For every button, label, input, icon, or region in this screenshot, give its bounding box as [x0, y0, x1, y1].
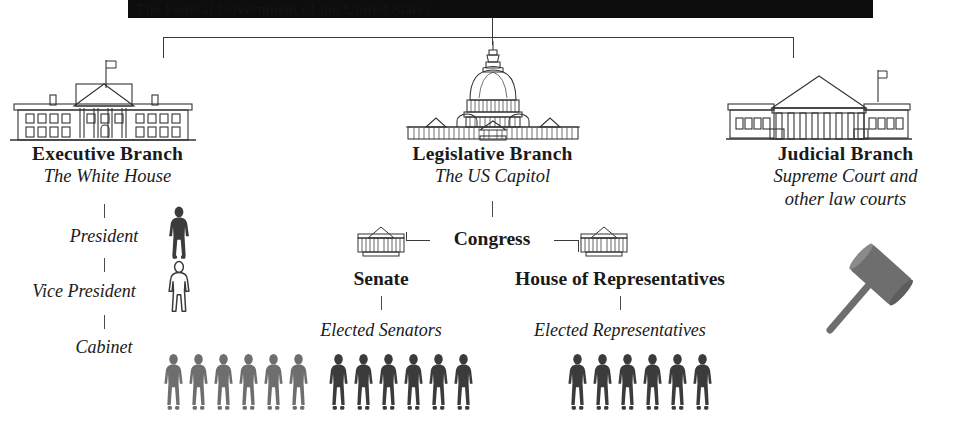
legislative-branch-subtitle: The US Capitol — [385, 165, 600, 188]
members-label-senators: Elected Senators — [301, 320, 461, 340]
person-figure — [327, 352, 350, 416]
us-capitol-icon — [404, 40, 582, 140]
redacted-title-text: The Federal Government of the United Sta… — [128, 0, 873, 18]
person-figure — [237, 352, 260, 416]
person-figure — [162, 352, 185, 416]
role-label-president: President — [24, 226, 184, 246]
house-building-icon — [578, 224, 630, 258]
person-figure — [616, 352, 639, 416]
connector-horizontal-bus — [163, 37, 794, 38]
judicial-branch-subtitle-line2: other law courts — [748, 188, 943, 211]
person-figure — [691, 352, 714, 416]
person-figure — [591, 352, 614, 416]
tick-house-to-members — [620, 296, 621, 310]
connector-drop-judicial — [793, 37, 794, 58]
connector-congress-to-senate — [406, 240, 430, 241]
tick-senate-to-members — [381, 296, 382, 310]
tick-vice-president-to-cabinet — [104, 315, 105, 329]
white-house-icon — [8, 58, 198, 142]
person-figure — [287, 352, 310, 416]
senate-building-icon — [355, 224, 407, 258]
role-label-vice-president: Vice President — [4, 281, 164, 301]
figure-group-cabinet — [162, 352, 310, 416]
person-figure — [187, 352, 210, 416]
person-figure — [166, 206, 192, 260]
judicial-branch-title: Judicial Branch — [748, 143, 943, 165]
node-label-congress: Congress — [432, 228, 552, 250]
person-figure — [377, 352, 400, 416]
person-figure — [452, 352, 475, 416]
connector-congress-to-house — [554, 240, 578, 241]
connector-drop-executive — [163, 37, 164, 58]
person-figure — [641, 352, 664, 416]
executive-branch-subtitle: The White House — [0, 165, 215, 188]
executive-branch-title: Executive Branch — [0, 143, 215, 165]
person-figure — [402, 352, 425, 416]
organization-chart: The Federal Government of the United Sta… — [0, 0, 953, 434]
figure-group-senators — [327, 352, 475, 416]
role-label-cabinet: Cabinet — [24, 337, 184, 357]
tick-executive-to-president — [104, 204, 105, 218]
person-figure — [352, 352, 375, 416]
members-label-representatives: Elected Representatives — [515, 320, 725, 340]
person-figure — [427, 352, 450, 416]
redacted-title-bar: The Federal Government of the United Sta… — [128, 0, 873, 18]
chamber-label-house: House of Representatives — [490, 268, 750, 290]
figure-group-vice-president — [166, 261, 192, 315]
person-figure-outline — [166, 261, 192, 315]
person-figure — [262, 352, 285, 416]
connector-root-stem — [492, 18, 493, 38]
legislative-branch-title: Legislative Branch — [385, 143, 600, 165]
person-figure — [666, 352, 689, 416]
tick-legislative-to-congress — [492, 201, 493, 217]
supreme-court-icon — [726, 56, 912, 142]
tick-president-to-vice-president — [104, 258, 105, 272]
person-figure — [566, 352, 589, 416]
figure-group-president — [166, 206, 192, 260]
gavel-icon — [824, 232, 944, 342]
figure-group-representatives — [566, 352, 714, 416]
judicial-branch-subtitle-line1: Supreme Court and — [748, 165, 943, 188]
person-figure — [212, 352, 235, 416]
chamber-label-senate: Senate — [321, 268, 441, 290]
